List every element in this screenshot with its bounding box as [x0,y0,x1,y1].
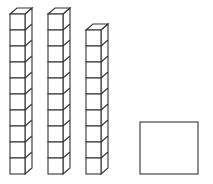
unit-cube [48,142,63,158]
unit-cube [10,110,25,126]
unit-cube [86,78,101,94]
unit-cube [48,110,63,126]
unit-cube [48,94,63,110]
unit-cube [10,78,25,94]
unit-cube [10,142,25,158]
rod-2 [48,8,70,174]
unit-cube [86,158,101,174]
unit-cube [48,30,63,46]
unit-cube [10,62,25,78]
flat-square [140,122,198,174]
unit-cube [10,46,25,62]
rod-1 [10,8,32,174]
unit-cube [86,46,101,62]
unit-cube [86,126,101,142]
unit-cube [48,78,63,94]
unit-cube [86,62,101,78]
unit-cube [10,14,25,30]
base-ten-diagram [0,0,213,184]
unit-cube [86,94,101,110]
unit-cube [10,94,25,110]
unit-cube [10,158,25,174]
rod-3 [86,24,108,174]
unit-cube [10,126,25,142]
unit-cube [86,110,101,126]
unit-cube [10,30,25,46]
unit-cube [48,46,63,62]
rods-group [10,8,108,174]
unit-cube [48,126,63,142]
unit-cube [48,62,63,78]
unit-cube [48,158,63,174]
unit-cube [86,30,101,46]
unit-cube [48,14,63,30]
unit-cube [86,142,101,158]
rod-side-face [101,24,108,174]
